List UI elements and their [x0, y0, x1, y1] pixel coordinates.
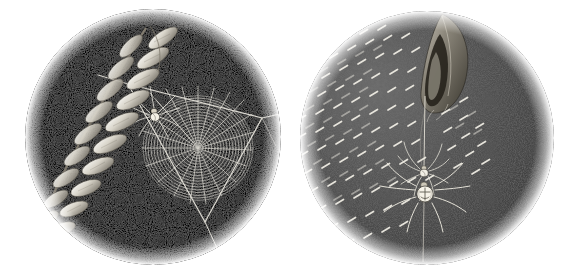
illustration-plate: Spiders and Webs — stipple engraving pla…	[0, 0, 579, 271]
right-vignette	[290, 0, 579, 271]
left-vignette	[0, 0, 290, 271]
left-stipple-background	[22, 9, 289, 271]
right-stipple-background	[298, 11, 554, 265]
